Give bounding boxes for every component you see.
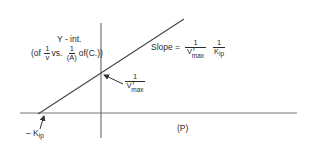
y-intercept-value: 1 Vfmax — [124, 73, 146, 90]
y-int-prefix: (of — [31, 48, 41, 58]
vs-label: vs. — [51, 48, 62, 58]
x-intercept-label: – Kip — [26, 129, 44, 138]
x-axis-label: (P) — [177, 124, 188, 133]
slope-annotation: Slope = 1 Vfmax 1 Kip — [151, 39, 226, 56]
slope-fraction-kip: 1 Kip — [213, 39, 225, 56]
one-over-vmax-fraction: 1 Vfmax — [125, 73, 145, 90]
slope-fraction-vmax: 1 Vfmax — [185, 39, 205, 56]
slope-prefix: Slope = — [151, 42, 180, 52]
y-intercept-description: (of 1 v vs. 1 (A) of(C.)) — [31, 45, 103, 62]
x-intercept-arrow-icon — [40, 116, 44, 129]
y-intercept-arrow-icon — [104, 75, 123, 84]
plot-canvas — [0, 0, 310, 145]
y-int-suffix: of(C.)) — [79, 48, 103, 58]
one-over-a-fraction: 1 (A) — [66, 45, 78, 62]
y-intercept-title: Y - int. — [57, 35, 81, 44]
one-over-v-fraction: 1 v — [44, 45, 50, 62]
